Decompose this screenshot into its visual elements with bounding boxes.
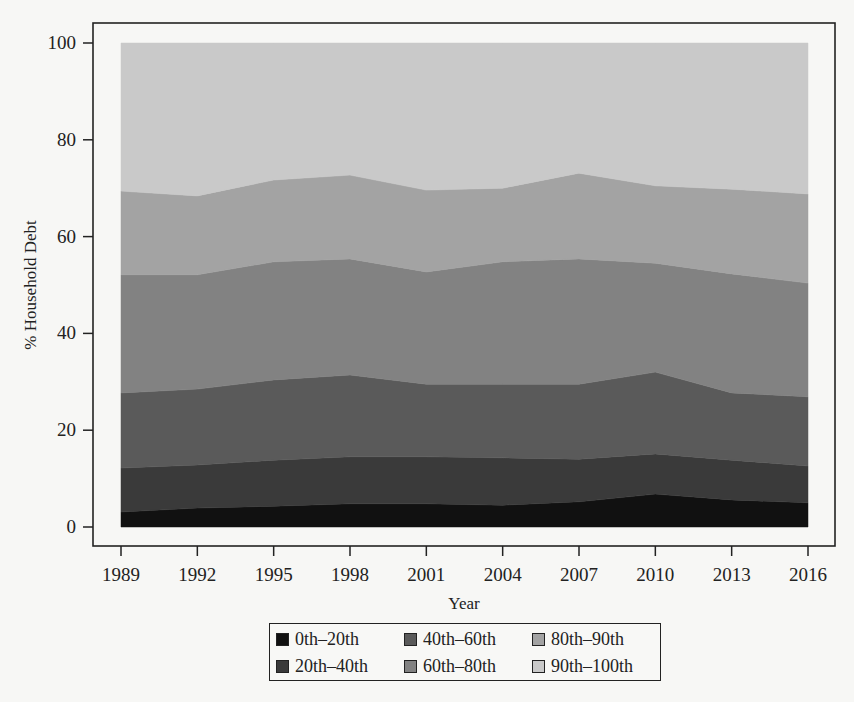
x-tick-label: 2016 bbox=[789, 564, 827, 585]
y-tick-label: 60 bbox=[57, 226, 76, 247]
area-layers bbox=[121, 43, 808, 527]
x-tick-label: 2013 bbox=[713, 564, 751, 585]
x-tick-label: 2010 bbox=[636, 564, 674, 585]
legend-item-0th-20th: 0th–20th bbox=[276, 626, 404, 653]
legend-label: 40th–60th bbox=[423, 629, 496, 650]
x-tick-label: 2004 bbox=[484, 564, 523, 585]
legend-swatch bbox=[532, 633, 545, 646]
legend-label: 80th–90th bbox=[551, 629, 624, 650]
legend: 0th–20th 40th–60th 80th–90th 20th–40th 6… bbox=[269, 623, 661, 681]
y-tick-label: 100 bbox=[48, 32, 77, 53]
x-tick-label: 1998 bbox=[331, 564, 369, 585]
y-tick-label: 80 bbox=[57, 129, 76, 150]
y-tick-label: 40 bbox=[57, 322, 76, 343]
x-tick-label: 1989 bbox=[102, 564, 140, 585]
y-tick-label: 20 bbox=[57, 419, 76, 440]
legend-item-40th-60th: 40th–60th bbox=[404, 626, 532, 653]
area-60th-80th bbox=[121, 259, 808, 397]
legend-swatch bbox=[404, 633, 417, 646]
area-40th-60th bbox=[121, 372, 808, 468]
stacked-area-chart: 020406080100 198919921995199820012004200… bbox=[0, 0, 854, 702]
y-axis-title: % Household Debt bbox=[21, 220, 40, 350]
x-tick-label: 1992 bbox=[178, 564, 216, 585]
legend-swatch bbox=[276, 660, 289, 673]
legend-swatch bbox=[404, 660, 417, 673]
legend-item-60th-80th: 60th–80th bbox=[404, 653, 532, 680]
legend-label: 90th–100th bbox=[551, 656, 633, 677]
x-tick-label: 2001 bbox=[407, 564, 445, 585]
y-axis: 020406080100 bbox=[48, 32, 94, 537]
legend-label: 60th–80th bbox=[423, 656, 496, 677]
x-tick-label: 2007 bbox=[560, 564, 598, 585]
legend-label: 20th–40th bbox=[295, 656, 368, 677]
legend-swatch bbox=[532, 660, 545, 673]
legend-swatch bbox=[276, 633, 289, 646]
legend-label: 0th–20th bbox=[295, 629, 359, 650]
x-tick-label: 1995 bbox=[255, 564, 293, 585]
area-90th-100th bbox=[121, 43, 808, 196]
x-axis-title: Year bbox=[448, 594, 480, 613]
x-axis: 1989199219951998200120042007201020132016 bbox=[102, 546, 827, 585]
legend-item-80th-90th: 80th–90th bbox=[532, 626, 668, 653]
legend-item-90th-100th: 90th–100th bbox=[532, 653, 668, 680]
legend-item-20th-40th: 20th–40th bbox=[276, 653, 404, 680]
y-tick-label: 0 bbox=[67, 516, 77, 537]
